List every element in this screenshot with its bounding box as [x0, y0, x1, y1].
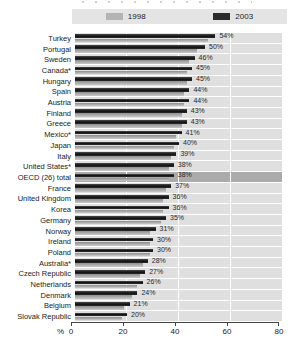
axis-tick	[123, 323, 124, 326]
bar-1998	[75, 81, 187, 85]
legend-swatch-1998	[106, 13, 123, 20]
bar-1998	[75, 60, 189, 64]
bar-2003	[75, 216, 166, 220]
bar-1998	[75, 210, 163, 214]
bar-2003	[75, 99, 189, 103]
bar-1998	[75, 146, 174, 150]
country-label: Turkey	[0, 33, 75, 44]
row-band: 41%	[75, 129, 283, 140]
country-label: Finland	[0, 108, 75, 119]
row-band: 35%	[75, 215, 283, 226]
value-label: 45%	[196, 76, 210, 82]
country-label: Greece	[0, 119, 75, 130]
country-label: Norway	[0, 226, 75, 237]
value-label: 41%	[186, 129, 200, 135]
bar-2003	[75, 238, 153, 242]
chart-row: Germany35%	[0, 215, 295, 226]
bar-2003	[75, 174, 174, 178]
value-label: 40%	[183, 140, 197, 146]
chart-row: Mexico*41%	[0, 129, 295, 140]
bar-2003	[75, 184, 171, 188]
row-band: 50%	[75, 44, 283, 55]
chart-row: Hungary45%	[0, 76, 295, 87]
bar-2003	[75, 249, 153, 253]
chart-row: France37%	[0, 183, 295, 194]
value-label: 28%	[152, 258, 166, 264]
bar-2003	[75, 259, 148, 263]
bar-1998	[75, 285, 137, 289]
chart-row: Norway31%	[0, 226, 295, 237]
legend: 1998 2003	[72, 9, 287, 24]
bar-2003	[75, 109, 187, 113]
value-label: 46%	[199, 54, 213, 60]
bar-2003	[75, 67, 192, 71]
bar-1998	[75, 49, 197, 53]
country-label: Austria	[0, 97, 75, 108]
chart-row: Portugal50%	[0, 44, 295, 55]
bar-2003	[75, 131, 182, 135]
bar-2003	[75, 163, 174, 167]
chart-row: Korea36%	[0, 204, 295, 215]
value-label: 30%	[157, 236, 171, 242]
bar-1998	[75, 306, 124, 310]
chart-row: Slovak Republic20%	[0, 311, 295, 322]
bar-1998	[75, 188, 166, 192]
value-label: 20%	[131, 311, 145, 317]
value-label: 38%	[178, 172, 192, 178]
country-label: Spain	[0, 87, 75, 98]
bar-1998	[75, 253, 150, 257]
legend-label-1998: 1998	[128, 12, 146, 21]
value-label: 54%	[219, 33, 233, 39]
country-label: United States*	[0, 161, 75, 172]
bar-2003	[75, 281, 143, 285]
value-label: 36%	[173, 194, 187, 200]
chart-row: United Kingdom36%	[0, 194, 295, 205]
legend-item-2003: 2003	[213, 12, 253, 21]
axis-tick-label: 0	[69, 327, 73, 336]
country-label: Ireland	[0, 236, 75, 247]
bar-1998	[75, 221, 161, 225]
bar-2003	[75, 206, 169, 210]
bar-1998	[75, 178, 169, 182]
value-label: 43%	[191, 108, 205, 114]
country-label: Korea	[0, 204, 75, 215]
row-band: 24%	[75, 290, 283, 301]
country-label: Canada*	[0, 65, 75, 76]
value-label: 44%	[193, 97, 207, 103]
chart-row: Spain44%	[0, 87, 295, 98]
row-band: 44%	[75, 97, 283, 108]
value-label: 37%	[175, 183, 189, 189]
country-label: Italy	[0, 151, 75, 162]
row-band: 40%	[75, 140, 283, 151]
bar-1998	[75, 39, 208, 43]
axis-tick-label: 20	[119, 327, 128, 336]
axis-unit-label: %	[57, 327, 64, 336]
chart-row: Belgium21%	[0, 301, 295, 312]
country-label: Germany	[0, 215, 75, 226]
chart-row: Australia*28%	[0, 258, 295, 269]
bar-1998	[75, 124, 182, 128]
bar-2003	[75, 120, 187, 124]
chart-rows: Turkey54%Portugal50%Sweden46%Canada*45%H…	[0, 33, 295, 322]
chart-row: Greece43%	[0, 119, 295, 130]
value-label: 36%	[173, 204, 187, 210]
bar-2003	[75, 88, 189, 92]
value-label: 43%	[191, 119, 205, 125]
country-label: Portugal	[0, 44, 75, 55]
x-axis: % 020406080	[71, 322, 279, 339]
value-label: 38%	[178, 161, 192, 167]
bar-1998	[75, 295, 132, 299]
axis-tick	[227, 323, 228, 326]
bar-1998	[75, 71, 187, 75]
bar-2003	[75, 56, 195, 60]
chart-row: Finland43%	[0, 108, 295, 119]
chart-row: Ireland30%	[0, 236, 295, 247]
bar-1998	[75, 263, 143, 267]
value-label: 50%	[209, 44, 223, 50]
row-band: 43%	[75, 119, 283, 130]
bar-1998	[75, 242, 150, 246]
row-band: 26%	[75, 279, 283, 290]
row-band: 46%	[75, 54, 283, 65]
bar-2003	[75, 195, 169, 199]
bar-1998	[75, 92, 184, 96]
